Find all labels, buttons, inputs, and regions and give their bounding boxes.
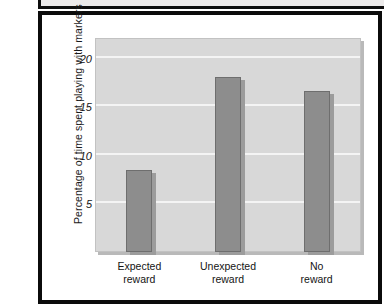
x-category-label-2: Unexpectedreward xyxy=(178,260,278,286)
x-category-label-line: reward xyxy=(178,273,278,286)
x-category-label-line: Unexpected xyxy=(178,260,278,273)
bar-3[interactable] xyxy=(304,91,330,252)
bar-slot xyxy=(184,38,273,252)
x-category-label-3: Noreward xyxy=(267,260,367,286)
bar-2[interactable] xyxy=(215,77,241,252)
figure-frame: Percentage of time spent playing with ma… xyxy=(38,11,382,304)
figure-page: Percentage of time spent playing with ma… xyxy=(0,0,384,306)
bars-layer xyxy=(95,38,361,252)
y-tick-label-20: 20 xyxy=(62,53,92,65)
bar-slot xyxy=(95,38,184,252)
bar-slot xyxy=(272,38,361,252)
x-category-label-line: No xyxy=(267,260,367,273)
y-axis-ticks: 5101520 xyxy=(56,38,92,252)
y-tick-label-10: 10 xyxy=(62,150,92,162)
y-tick-label-5: 5 xyxy=(62,198,92,210)
x-category-label-line: reward xyxy=(89,273,189,286)
y-tick-label-15: 15 xyxy=(62,101,92,113)
bar-chart: Percentage of time spent playing with ma… xyxy=(42,15,384,306)
x-category-label-line: Expected xyxy=(89,260,189,273)
x-axis-category-labels: ExpectedrewardUnexpectedrewardNoreward xyxy=(95,260,361,300)
x-category-label-line: reward xyxy=(267,273,367,286)
bar-1[interactable] xyxy=(126,170,152,252)
x-category-label-1: Expectedreward xyxy=(89,260,189,286)
top-frame-strip xyxy=(38,0,384,9)
